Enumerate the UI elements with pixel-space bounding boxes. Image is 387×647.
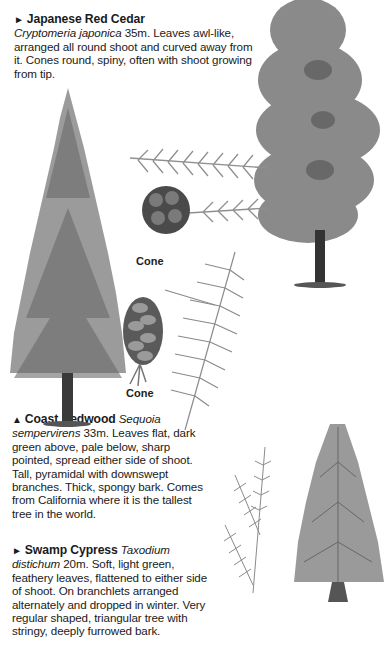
cypress-foliage-illustration bbox=[215, 445, 290, 595]
height: 35m. bbox=[125, 26, 150, 39]
arrow-right-icon: ► bbox=[12, 545, 22, 556]
cedar-tree-illustration bbox=[0, 88, 135, 428]
height: 20m. bbox=[63, 557, 88, 570]
latin-name: Cryptomeria japonica bbox=[14, 26, 122, 39]
arrow-right-icon: ► bbox=[14, 14, 24, 25]
cedar-mature-tree-illustration bbox=[248, 0, 387, 290]
common-name: Swamp Cypress bbox=[25, 543, 118, 557]
common-name: Japanese Red Cedar bbox=[27, 12, 145, 26]
cedar-foliage-with-cone-illustration bbox=[128, 138, 268, 258]
entry-swamp-cypress: ►Swamp Cypress Taxodium distichum 20m. S… bbox=[12, 543, 212, 638]
description: Leaves flat, dark green above, pale belo… bbox=[12, 426, 203, 519]
redwood-foliage-illustration bbox=[155, 250, 250, 435]
entry-japanese-red-cedar: ►Japanese Red Cedar Cryptomeria japonica… bbox=[14, 12, 254, 80]
cypress-tree-illustration bbox=[290, 422, 387, 617]
height: 33m. bbox=[84, 426, 109, 439]
